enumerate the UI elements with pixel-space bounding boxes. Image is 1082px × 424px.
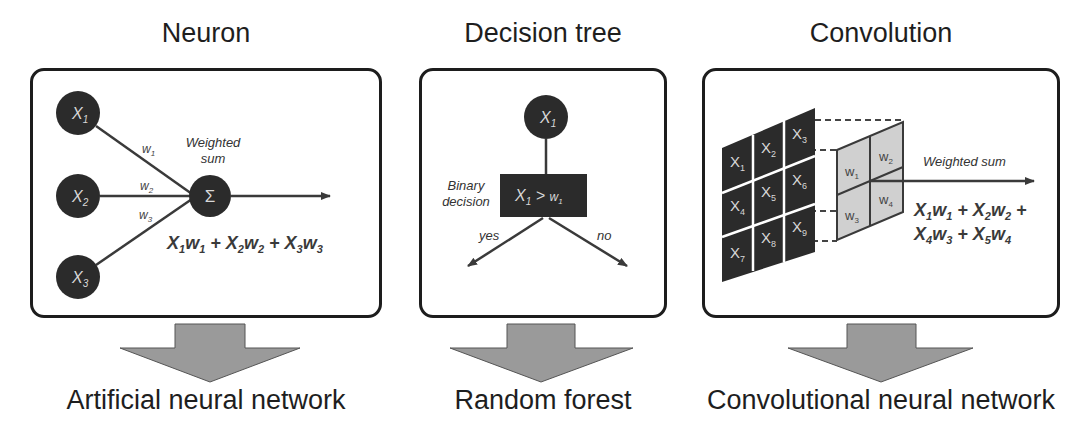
binary-decision-label: Binary (448, 178, 486, 193)
no-branch-arrow (549, 218, 627, 266)
weight-label-w1: w1 (142, 142, 155, 158)
sigma-icon: Σ (205, 187, 216, 206)
neuron-formula: X1w1 + X2w2 + X3w3 (166, 233, 323, 255)
no-label: no (597, 228, 611, 243)
ann-caption: Artificial neural network (0, 385, 412, 416)
random-forest-caption: Random forest (419, 385, 667, 416)
down-arrow-icon (788, 324, 973, 382)
decision-tree-diagram: X1 X1 > w1 Binary decision yes no (442, 95, 627, 266)
weight-label-w2: w2 (140, 179, 154, 195)
weighted-sum-label: Weighted sum (923, 154, 1006, 169)
yes-label: yes (478, 228, 500, 243)
down-arrow-icon (120, 324, 300, 382)
binary-decision-label-2: decision (442, 194, 490, 209)
convolution-formula-line2: X4w3 + X5w4 (913, 224, 1011, 246)
neuron-diagram: X1 X2 X3 Σ w1 w2 w3 Weighted sum X1w1 + … (56, 91, 330, 299)
diagram-canvas: X1 X2 X3 Σ w1 w2 w3 Weighted sum X1w1 + … (0, 0, 1082, 424)
weight-label-w3: w3 (139, 208, 153, 224)
weighted-sum-label-2: sum (201, 151, 226, 166)
cnn-caption: Convolutional neural network (690, 385, 1072, 416)
down-arrow-icon (450, 324, 633, 382)
convolution-diagram: X1 X2 X3 X4 X5 X6 X7 X8 X9 w1 w2 w3 w4 W… (722, 108, 1034, 282)
convolution-formula-line1: X1w1 + X2w2 + (913, 200, 1027, 222)
weighted-sum-label: Weighted (186, 135, 241, 150)
